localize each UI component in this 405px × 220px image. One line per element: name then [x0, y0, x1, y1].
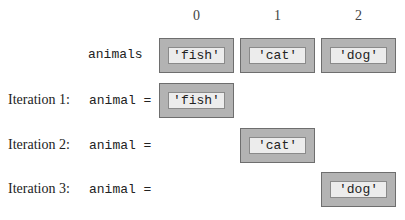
- iteration-cell-value: 'cat': [249, 137, 306, 154]
- iteration-cell: 'cat': [240, 128, 315, 163]
- iteration-cell-value: 'fish': [168, 92, 225, 109]
- iteration-cell-value: 'dog': [330, 181, 387, 198]
- iteration-variable: animal =: [89, 93, 151, 108]
- index-label-1: 1: [240, 8, 315, 24]
- list-name: animals: [88, 47, 143, 62]
- list-cell-value: 'dog': [330, 47, 387, 64]
- list-cell-value: 'fish': [168, 47, 225, 64]
- list-cell-1: 'cat': [240, 38, 315, 73]
- iteration-cell: 'dog': [321, 172, 396, 207]
- iteration-label: Iteration 3:: [8, 181, 70, 197]
- list-cell-0: 'fish': [159, 38, 234, 73]
- iteration-cell: 'fish': [159, 83, 234, 118]
- iteration-label: Iteration 1:: [8, 92, 70, 108]
- list-cell-2: 'dog': [321, 38, 396, 73]
- index-label-2: 2: [321, 8, 396, 24]
- iteration-variable: animal =: [89, 182, 151, 197]
- index-label-0: 0: [159, 8, 234, 24]
- iteration-variable: animal =: [89, 138, 151, 153]
- iteration-label: Iteration 2:: [8, 137, 70, 153]
- list-cell-value: 'cat': [249, 47, 306, 64]
